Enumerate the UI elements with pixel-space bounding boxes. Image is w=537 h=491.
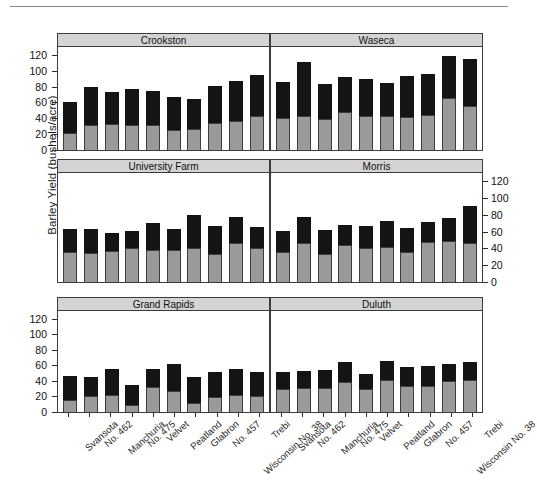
bar-group xyxy=(58,311,269,412)
bar-segment-lower xyxy=(63,400,77,412)
bar xyxy=(63,229,77,282)
plot-area xyxy=(271,311,482,412)
bar xyxy=(146,91,160,150)
bar-segment-lower xyxy=(84,125,98,150)
x-tick-mark xyxy=(110,413,111,417)
bar-segment-lower xyxy=(125,248,139,282)
x-tick-mark xyxy=(302,413,303,417)
bar-segment-upper xyxy=(442,364,456,381)
bar-segment-lower xyxy=(380,380,394,412)
y-tick-label: 20 xyxy=(17,391,47,401)
bar-group xyxy=(271,311,482,412)
bar xyxy=(276,82,290,150)
y-tick-label: 0 xyxy=(17,407,47,417)
bar-segment-lower xyxy=(250,116,264,150)
bar xyxy=(463,362,477,412)
bar-segment-lower xyxy=(105,251,119,282)
y-tick-mark xyxy=(52,87,57,88)
bar-segment-upper xyxy=(338,77,352,112)
bar xyxy=(229,369,243,412)
bar-segment-upper xyxy=(463,59,477,107)
bar-segment-lower xyxy=(318,388,332,412)
panel-strip-label: Waseca xyxy=(271,34,482,47)
x-tick-mark xyxy=(387,413,388,417)
bar xyxy=(297,217,311,282)
bar-segment-upper xyxy=(105,92,119,124)
y-tick-label: 100 xyxy=(491,193,509,203)
bar xyxy=(442,218,456,282)
bar-segment-lower xyxy=(276,252,290,282)
bar-segment-lower xyxy=(442,98,456,150)
bar-segment-lower xyxy=(442,381,456,412)
bar-segment-upper xyxy=(380,361,394,380)
y-tick-mark xyxy=(483,248,488,249)
bar-segment-upper xyxy=(276,82,290,118)
bar xyxy=(463,59,477,150)
bar xyxy=(276,372,290,412)
bar-segment-upper xyxy=(359,79,373,116)
x-tick-mark xyxy=(345,413,346,417)
y-tick-mark xyxy=(52,381,57,382)
bar-segment-lower xyxy=(187,129,201,150)
y-tick-mark xyxy=(52,365,57,366)
bar-segment-lower xyxy=(146,125,160,150)
bar-segment-lower xyxy=(400,252,414,282)
y-tick-mark xyxy=(52,319,57,320)
bar-segment-lower xyxy=(421,115,435,150)
bar-group xyxy=(271,173,482,282)
y-tick-mark xyxy=(52,396,57,397)
bar-segment-upper xyxy=(105,233,119,251)
bar xyxy=(421,74,435,150)
bar-segment-upper xyxy=(125,89,139,125)
bar xyxy=(276,231,290,282)
bar xyxy=(400,367,414,412)
bar xyxy=(125,231,139,282)
y-tick-label: 60 xyxy=(17,360,47,370)
y-tick-mark xyxy=(52,150,57,151)
bar-segment-upper xyxy=(125,231,139,249)
bar xyxy=(297,371,311,412)
bar-segment-upper xyxy=(359,374,373,389)
bar-segment-lower xyxy=(359,248,373,282)
bar-segment-upper xyxy=(167,97,181,130)
bar xyxy=(421,222,435,282)
y-tick-mark xyxy=(52,71,57,72)
bar-segment-upper xyxy=(208,86,222,123)
bar xyxy=(187,215,201,282)
bar-segment-lower xyxy=(208,397,222,412)
bar-segment-upper xyxy=(463,206,477,244)
bar xyxy=(380,361,394,412)
y-tick-label: 80 xyxy=(491,210,503,220)
bar-segment-upper xyxy=(380,83,394,116)
panel-duluth: Duluth xyxy=(270,297,483,413)
y-tick-label: 0 xyxy=(491,277,497,287)
bar-segment-upper xyxy=(297,62,311,116)
bar-segment-upper xyxy=(187,377,201,403)
bar xyxy=(400,76,414,150)
bar-group xyxy=(58,173,269,282)
y-tick-label: 80 xyxy=(17,82,47,92)
y-tick-mark xyxy=(52,350,57,351)
bar-segment-upper xyxy=(338,225,352,245)
bar-segment-upper xyxy=(421,222,435,242)
bar xyxy=(380,221,394,282)
bar-segment-upper xyxy=(442,218,456,241)
plot-area xyxy=(58,173,269,282)
bar xyxy=(208,372,222,412)
y-tick-label: 100 xyxy=(17,329,47,339)
bar xyxy=(442,364,456,412)
bar xyxy=(84,377,98,412)
bar-segment-upper xyxy=(276,231,290,252)
panel-strip-label: Morris xyxy=(271,160,482,173)
panel-strip-label: University Farm xyxy=(58,160,269,173)
bar xyxy=(250,372,264,412)
bar-segment-lower xyxy=(421,386,435,412)
y-tick-label: 120 xyxy=(491,176,509,186)
bar xyxy=(187,99,201,150)
bar-segment-upper xyxy=(229,81,243,121)
x-tick-mark xyxy=(174,413,175,417)
bar-segment-lower xyxy=(338,112,352,150)
bar-segment-upper xyxy=(146,223,160,250)
bar xyxy=(146,369,160,412)
bar-segment-lower xyxy=(463,380,477,412)
